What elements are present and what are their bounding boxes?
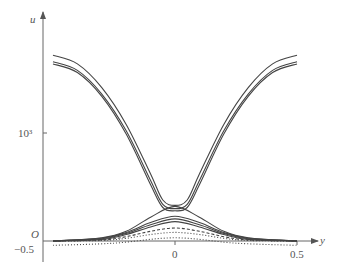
curve-outer-3 [53,64,297,211]
curve-hump-1 [53,206,297,241]
curve-outer-1 [53,55,297,205]
y-axis-label: u [30,14,36,25]
curve-hump-3 [53,219,297,241]
origin-label: O [31,229,39,240]
x-tick-label-0.5: 0.5 [290,249,304,260]
curve-hump-2 [53,216,297,241]
curve-series [53,55,297,245]
curve-outer-2 [53,62,297,209]
curve-hump-4 [53,222,297,241]
x-tick-label-neg0.5: −0.5 [14,244,34,255]
x-axis-label: y [320,235,325,246]
x-tick-label-0: 0 [172,249,178,260]
chart-plot [0,0,341,275]
axes [43,12,318,262]
y-tick-label-1000: 10³ [18,128,32,139]
